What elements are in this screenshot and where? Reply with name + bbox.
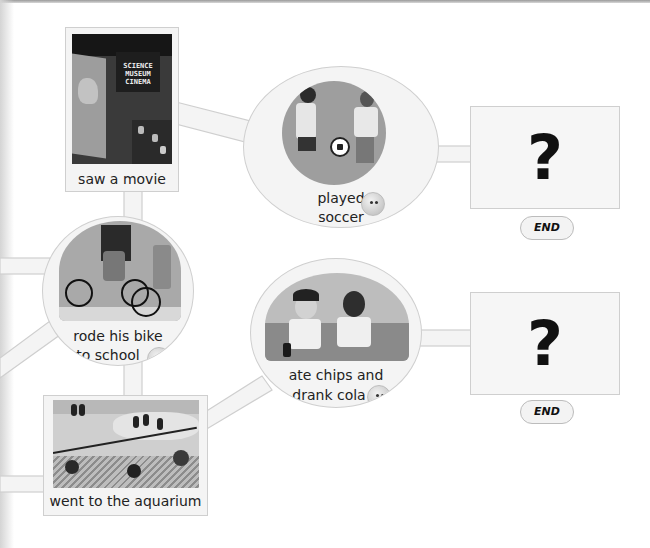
- chips-cola-image: [265, 273, 409, 361]
- node-ate-chips-drank-cola: ate chips and drank cola: [250, 258, 422, 408]
- question-mark-icon: ?: [527, 313, 563, 375]
- node-label-line2: drank cola: [251, 386, 421, 405]
- movie-theater-image: SCIENCE MUSEUM CINEMA: [72, 34, 172, 164]
- node-went-to-the-aquarium: went to the aquarium: [43, 395, 208, 516]
- soccer-image: [282, 81, 386, 185]
- bike-image: [59, 221, 181, 321]
- question-mark-icon: ?: [527, 127, 563, 189]
- node-end-mystery-top: ?: [470, 106, 620, 209]
- smiley-face-icon: [147, 347, 171, 366]
- connector-chips-end: [414, 330, 474, 346]
- node-label-line1: rode his bike: [43, 327, 193, 346]
- node-saw-a-movie: SCIENCE MUSEUM CINEMA saw a movie: [65, 27, 179, 192]
- node-end-mystery-bottom: ?: [470, 292, 620, 395]
- node-label: saw a movie: [66, 170, 178, 189]
- node-label: went to the aquarium: [44, 492, 207, 511]
- node-label-line2: soccer: [244, 208, 438, 227]
- node-rode-his-bike: rode his bike to school: [42, 216, 194, 366]
- smiley-face-icon: [367, 385, 391, 408]
- connector-bike-aquarium: [124, 360, 142, 398]
- node-label-line1: ate chips and: [251, 366, 421, 385]
- node-label-line1: played: [244, 189, 438, 208]
- connector-aquarium-left: [0, 476, 46, 492]
- connector-bike-left: [0, 258, 50, 274]
- soccer-ball: [330, 137, 350, 157]
- node-played-soccer: played soccer: [243, 66, 439, 228]
- cinema-sign-text: SCIENCE MUSEUM CINEMA: [116, 62, 160, 86]
- smiley-face-icon: [361, 192, 385, 216]
- end-button-bottom[interactable]: END: [520, 400, 574, 424]
- end-button-top[interactable]: END: [520, 216, 574, 240]
- aquarium-image: [53, 400, 199, 488]
